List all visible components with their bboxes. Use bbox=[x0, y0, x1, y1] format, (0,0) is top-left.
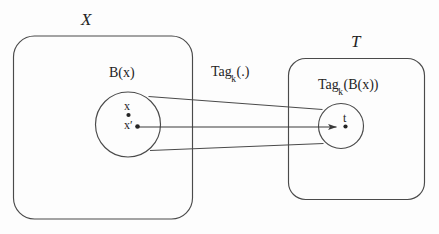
ball-bx-label: B(x) bbox=[109, 66, 135, 80]
point-x-label: x bbox=[124, 100, 130, 112]
diagram-svg bbox=[0, 0, 439, 234]
point-t-dot bbox=[343, 124, 347, 128]
envelope-line-upper bbox=[149, 97, 323, 110]
figure-canvas: X T B(x) Tagk(.) Tagk(B(x)) x x′ t bbox=[0, 0, 439, 234]
point-x-prime-dot bbox=[135, 124, 140, 129]
ball-tag-bx-label-main: Tag bbox=[318, 77, 339, 92]
point-x-dot bbox=[126, 113, 130, 117]
mapping-label-tail: (.) bbox=[237, 64, 250, 79]
set-x-label: X bbox=[81, 11, 91, 28]
ball-tag-bx-label: Tagk(B(x)) bbox=[318, 78, 379, 95]
mapping-label: Tagk(.) bbox=[211, 65, 249, 82]
mapping-label-main: Tag bbox=[211, 64, 232, 79]
ball-tag-bx-label-subscript: k bbox=[338, 87, 343, 97]
set-t-label: T bbox=[351, 33, 360, 50]
ball-tag-bx-label-tail: (B(x)) bbox=[344, 77, 379, 92]
envelope-line-lower bbox=[150, 144, 324, 151]
point-x-prime-label: x′ bbox=[124, 119, 133, 131]
ball-tag-bx-boundary bbox=[319, 104, 364, 149]
mapping-label-subscript: k bbox=[231, 74, 236, 84]
point-t-label: t bbox=[343, 112, 346, 124]
